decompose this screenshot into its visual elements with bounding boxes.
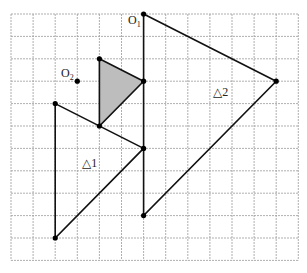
label-triangle-2: △2 <box>213 85 228 99</box>
label-o1: O1 <box>128 13 141 29</box>
label-o2: O2 <box>61 66 74 82</box>
grid-diagram: O1 O2 △1 △2 <box>0 0 307 273</box>
diagram-canvas: O1 O2 △1 △2 <box>0 0 307 273</box>
grid-lines <box>11 14 298 260</box>
label-triangle-1: △1 <box>82 156 97 170</box>
